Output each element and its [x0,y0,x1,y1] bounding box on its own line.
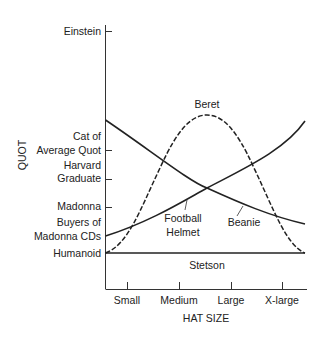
y-tick-cat-line2: Average Quot [36,144,101,156]
y-tick-cat-line1: Cat of [73,130,101,142]
label-beret: Beret [194,98,219,110]
leader-beanie [237,206,243,216]
x-axis-title: HAT SIZE [183,312,229,324]
x-tick-small: Small [114,294,140,306]
y-tick-humanoid: Humanoid [53,247,101,259]
series-beanie [106,120,306,224]
y-tick-einstein: Einstein [64,25,102,37]
label-football-line2: Helmet [166,226,199,238]
label-stetson: Stetson [189,259,225,271]
label-football-line1: Football [164,212,201,224]
x-tick-large: Large [218,294,245,306]
y-ticks [106,32,113,208]
x-tick-xlarge: X-large [265,294,299,306]
leader-football [185,200,187,210]
y-tick-buyers-line1: Buyers of [57,216,101,228]
y-tick-harvard-line2: Graduate [57,172,101,184]
y-axis-title: QUOT [16,139,28,170]
y-tick-harvard-line1: Harvard [64,159,102,171]
y-tick-buyers-line2: Madonna CDs [34,230,101,242]
series-beret [106,115,306,253]
label-beanie: Beanie [228,216,261,228]
x-ticks [128,282,283,289]
x-tick-medium: Medium [160,294,198,306]
chart: Einstein Cat of Average Quot Harvard Gra… [0,0,319,337]
y-tick-madonna: Madonna [57,200,101,212]
